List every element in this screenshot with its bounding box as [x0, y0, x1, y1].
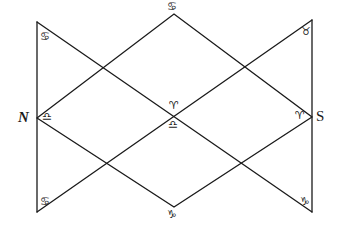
aries-icon: ♈ — [295, 110, 305, 121]
cancer-icon: ♋ — [40, 31, 50, 42]
libra-icon: ♎ — [168, 119, 178, 130]
capricorn-icon: ♑ — [167, 209, 177, 220]
south-label: S — [316, 109, 324, 124]
taurus-icon: ♉ — [301, 26, 311, 37]
capricorn-icon: ♑ — [300, 196, 310, 207]
aries-icon: ♈ — [169, 100, 179, 111]
cancer-icon: ♋ — [167, 1, 177, 12]
libra-icon: ♎ — [42, 111, 52, 122]
cancer-icon: ♋ — [40, 196, 50, 207]
north-label: N — [18, 110, 29, 125]
